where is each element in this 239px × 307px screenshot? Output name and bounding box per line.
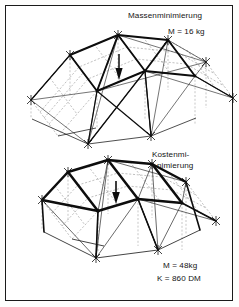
lower-truss-structure: [38, 155, 220, 263]
lower-structure-title-line-2: nimierung: [157, 161, 193, 170]
upper-ground-plane: [32, 118, 196, 144]
upper-load-arrow: [115, 54, 122, 80]
upper-primary-members-secondary: [31, 55, 233, 144]
lower-structure-mass-label: M = 48kg: [163, 261, 197, 270]
truss-drawing: [0, 0, 239, 307]
upper-structure-mass-label: M = 16 kg: [168, 27, 205, 36]
upper-structure-title: Massenminimierung: [128, 11, 202, 20]
lower-primary-members-secondary: [42, 182, 216, 258]
lower-structure-title-line-1: Kostenmi-: [152, 150, 189, 159]
lower-ground-plane: [44, 230, 200, 258]
figure-container: Massenminimierung M = 16 kg Kostenmi- ni…: [0, 0, 239, 307]
upper-truss-structure: [27, 30, 237, 149]
lower-load-arrow: [112, 181, 120, 204]
upper-secondary-members: [31, 35, 233, 144]
lower-structure-cost-label: K = 860 DM: [157, 274, 201, 283]
